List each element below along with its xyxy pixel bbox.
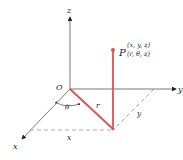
point-cylindrical-label: (r, θ, z) [127,50,151,58]
point-cartesian-label: (x, y, z) [127,41,151,49]
y-segment-label: y [136,109,142,118]
cylindrical-coordinates-diagram: z y x O P (x, y, z) (r, θ, z) r θ x y [0,0,183,160]
y-axis-label: y [177,85,183,94]
r-label: r [96,101,100,110]
point-label: P [118,47,126,58]
x-segment-label: x [67,133,72,142]
x-axis [22,89,70,139]
projection-point [112,128,115,131]
point-p [111,48,115,52]
x-axis-label: x [13,142,18,151]
r-segment [70,89,113,129]
z-axis-label: z [66,6,72,15]
theta-label: θ [65,104,70,112]
origin-label: O [56,83,63,92]
y-projection-dashed [113,89,154,130]
